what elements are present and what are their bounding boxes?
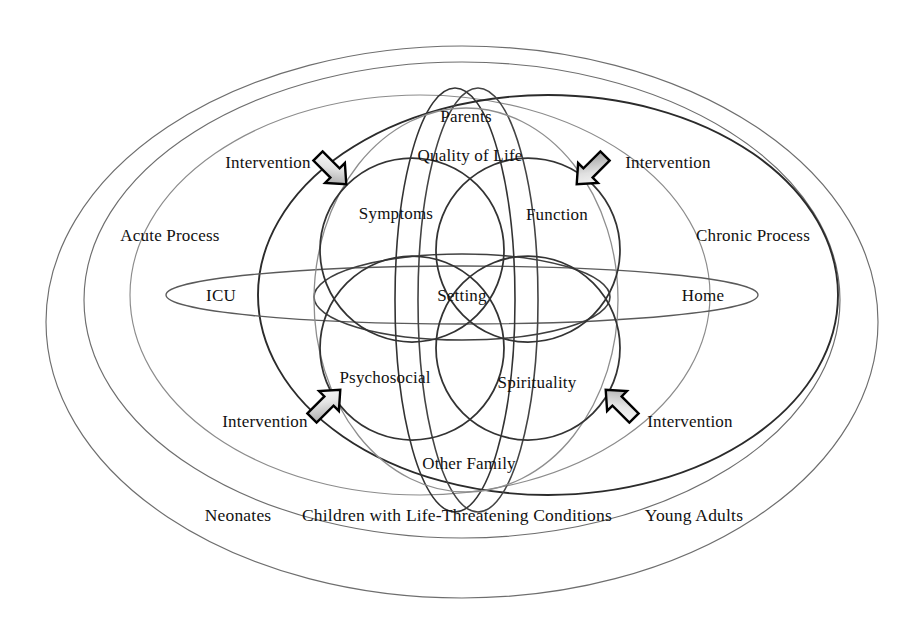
label-chronic-process: Chronic Process [696, 226, 810, 245]
intervention-label-bottom-right: Intervention [647, 412, 733, 431]
symptoms-circle [320, 158, 504, 342]
label-icu: ICU [206, 286, 236, 305]
label-quality-of-life: Quality of Life [418, 146, 523, 165]
label-spirituality: Spirituality [498, 373, 577, 392]
label-setting: Setting [437, 286, 487, 305]
label-home: Home [682, 286, 724, 305]
chronic-process-ellipse [258, 95, 838, 495]
caption-neonates: Neonates [205, 505, 272, 525]
intervention-arrow-bottom-left-icon [302, 380, 350, 428]
intervention-label-bottom-left: Intervention [222, 412, 308, 431]
spirituality-circle [436, 256, 620, 440]
intervention-label-top-right: Intervention [625, 153, 711, 172]
label-psychosocial: Psychosocial [339, 368, 430, 387]
intervention-label-top-left: Intervention [225, 153, 311, 172]
caption-children: Children with Life-Threatening Condition… [302, 505, 612, 525]
label-function: Function [526, 205, 588, 224]
label-other-family: Other Family [422, 454, 516, 473]
intervention-arrow-top-left-icon [308, 146, 356, 194]
caption-young-adults: Young Adults [645, 505, 743, 525]
label-acute-process: Acute Process [120, 226, 219, 245]
diagram-svg: Parents Quality of Life Symptoms Functio… [0, 0, 924, 620]
label-parents: Parents [440, 107, 491, 126]
label-symptoms: Symptoms [359, 204, 433, 223]
intervention-arrow-bottom-right-icon [596, 380, 644, 428]
figure-canvas: { "figure": { "title": "Model of palliat… [0, 0, 924, 620]
bottom-caption-group: Neonates Children with Life-Threatening … [205, 505, 744, 525]
psychosocial-circle [320, 256, 504, 440]
